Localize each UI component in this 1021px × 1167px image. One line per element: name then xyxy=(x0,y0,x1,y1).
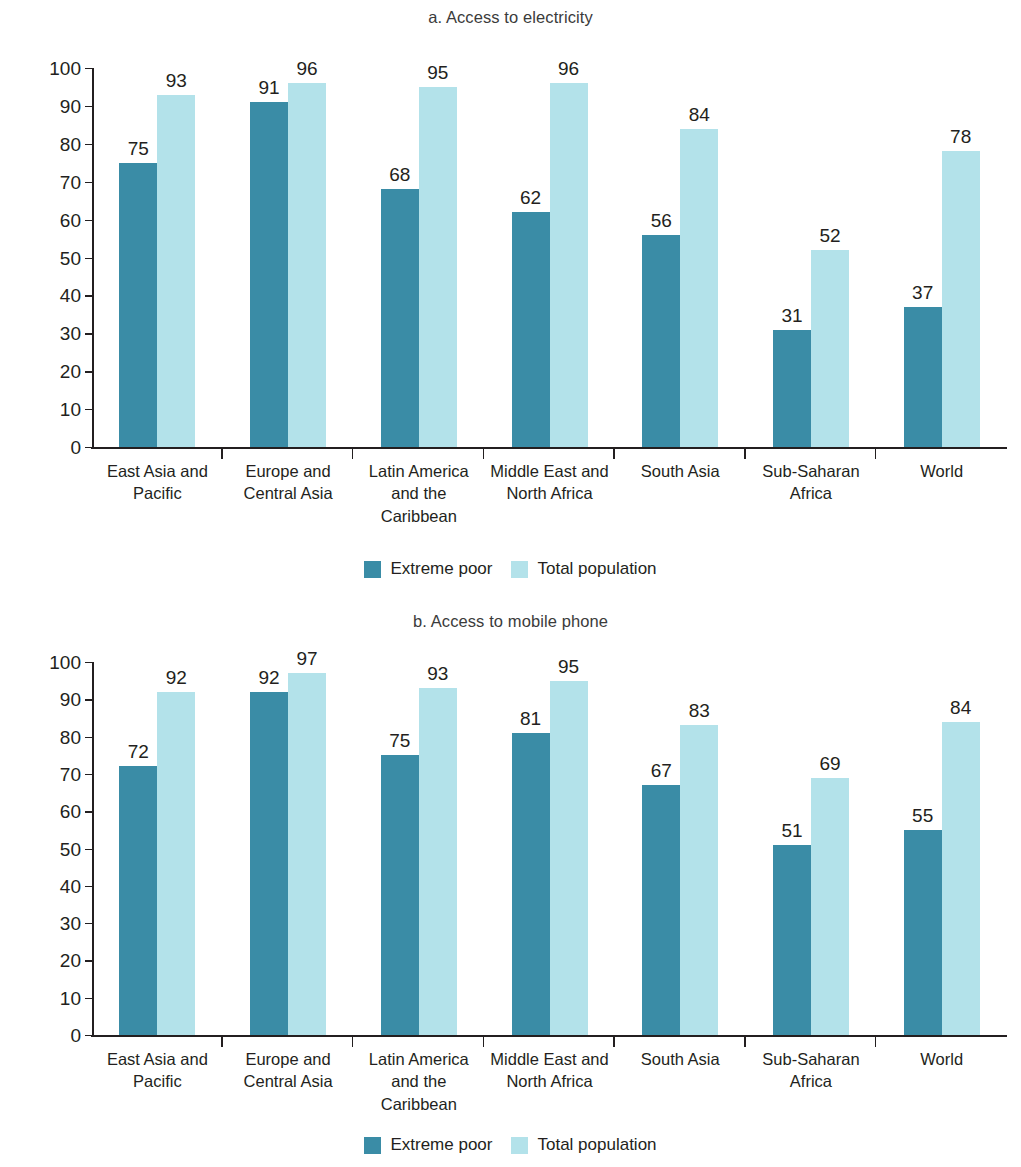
y-axis-tick-label: 50 xyxy=(60,839,81,858)
y-axis-tick-label: 20 xyxy=(60,951,81,970)
bar-total-population[interactable]: 52 xyxy=(811,250,849,447)
bar-total-population[interactable]: 92 xyxy=(157,692,195,1035)
y-axis-tick-label: 10 xyxy=(60,988,81,1007)
bar-value-label: 84 xyxy=(689,105,710,124)
bar-value-label: 96 xyxy=(297,59,318,78)
category-label: Europe and Central Asia xyxy=(223,1048,354,1115)
y-axis-tick-label: 30 xyxy=(60,914,81,933)
y-axis-tick xyxy=(85,447,92,448)
category-label: South Asia xyxy=(615,460,746,527)
bar-value-label: 91 xyxy=(259,78,280,97)
panel-a-legend: Extreme poor Total population xyxy=(0,559,1021,579)
bar-total-population[interactable]: 96 xyxy=(550,83,588,447)
legend-swatch-extreme-poor-icon xyxy=(364,1137,381,1154)
y-axis-tick-label: 100 xyxy=(49,59,81,78)
y-axis-tick-label: 0 xyxy=(70,438,81,457)
panel-a-x-axis-line xyxy=(91,447,1007,449)
y-axis-tick xyxy=(85,106,92,107)
bar-extreme-poor[interactable]: 75 xyxy=(119,163,157,447)
legend-item-total-population: Total population xyxy=(511,1135,656,1155)
legend-label-total-population: Total population xyxy=(537,1135,656,1155)
bar-total-population[interactable]: 95 xyxy=(550,681,588,1035)
panel-a-title: a. Access to electricity xyxy=(0,0,1021,27)
bar-value-label: 52 xyxy=(819,226,840,245)
panel-b-title: b. Access to mobile phone xyxy=(0,600,1021,631)
panel-b-plot-area: 1009080706050403020100 72929297759381956… xyxy=(92,662,1007,1035)
y-axis-tick-label: 50 xyxy=(60,248,81,267)
y-axis-tick xyxy=(85,774,92,775)
bar-extreme-poor[interactable]: 81 xyxy=(512,733,550,1035)
bar-extreme-poor[interactable]: 62 xyxy=(512,212,550,447)
y-axis-tick xyxy=(85,662,92,663)
bar-extreme-poor[interactable]: 75 xyxy=(381,755,419,1035)
bar-value-label: 92 xyxy=(166,668,187,687)
bar-extreme-poor[interactable]: 72 xyxy=(119,766,157,1035)
bar-total-population[interactable]: 78 xyxy=(942,151,980,447)
y-axis-tick-label: 0 xyxy=(70,1026,81,1045)
panel-b-legend: Extreme poor Total population xyxy=(0,1135,1021,1155)
y-axis-tick-label: 100 xyxy=(49,653,81,672)
y-axis-tick xyxy=(85,1035,92,1036)
y-axis-tick-label: 90 xyxy=(60,690,81,709)
bar-total-population[interactable]: 95 xyxy=(419,87,457,447)
y-axis-tick xyxy=(85,886,92,887)
bar-extreme-poor[interactable]: 55 xyxy=(904,830,942,1035)
bar-value-label: 81 xyxy=(520,709,541,728)
bar-group: 9297 xyxy=(223,662,354,1035)
y-axis-tick-label: 20 xyxy=(60,362,81,381)
bar-extreme-poor[interactable]: 67 xyxy=(642,785,680,1035)
bar-total-population[interactable]: 83 xyxy=(680,725,718,1035)
y-axis-tick xyxy=(85,409,92,410)
bar-value-label: 68 xyxy=(389,165,410,184)
legend-label-total-population: Total population xyxy=(537,559,656,579)
bar-value-label: 84 xyxy=(950,698,971,717)
bar-extreme-poor[interactable]: 92 xyxy=(250,692,288,1035)
bar-value-label: 69 xyxy=(819,754,840,773)
bar-value-label: 78 xyxy=(950,127,971,146)
category-label: Latin America and the Caribbean xyxy=(353,460,484,527)
bar-value-label: 97 xyxy=(297,649,318,668)
category-label: South Asia xyxy=(615,1048,746,1115)
y-axis-tick-label: 40 xyxy=(60,876,81,895)
bar-total-population[interactable]: 96 xyxy=(288,83,326,447)
y-axis-tick-label: 80 xyxy=(60,727,81,746)
bar-value-label: 62 xyxy=(520,188,541,207)
bar-total-population[interactable]: 84 xyxy=(942,722,980,1035)
category-label: Middle East and North Africa xyxy=(484,460,615,527)
category-label: World xyxy=(876,460,1007,527)
bar-extreme-poor[interactable]: 68 xyxy=(381,189,419,447)
legend-swatch-total-population-icon xyxy=(511,1137,528,1154)
bar-total-population[interactable]: 84 xyxy=(680,129,718,447)
bar-value-label: 83 xyxy=(689,701,710,720)
y-axis-tick-label: 30 xyxy=(60,324,81,343)
bar-value-label: 96 xyxy=(558,59,579,78)
bar-total-population[interactable]: 93 xyxy=(419,688,457,1035)
bar-total-population[interactable]: 97 xyxy=(288,673,326,1035)
y-axis-tick xyxy=(85,220,92,221)
bar-group: 7593 xyxy=(92,68,223,447)
bar-value-label: 75 xyxy=(389,731,410,750)
bar-extreme-poor[interactable]: 31 xyxy=(773,330,811,447)
bar-total-population[interactable]: 69 xyxy=(811,778,849,1035)
y-axis-tick-label: 70 xyxy=(60,172,81,191)
bar-group: 9196 xyxy=(223,68,354,447)
legend-item-extreme-poor: Extreme poor xyxy=(364,559,492,579)
y-axis-tick xyxy=(85,258,92,259)
bar-total-population[interactable]: 93 xyxy=(157,95,195,447)
y-axis-tick-label: 10 xyxy=(60,400,81,419)
panel-b-category-labels: East Asia and PacificEurope and Central … xyxy=(92,1048,1007,1115)
bar-extreme-poor[interactable]: 37 xyxy=(904,307,942,447)
y-axis-tick xyxy=(85,144,92,145)
bar-extreme-poor[interactable]: 56 xyxy=(642,235,680,447)
legend-label-extreme-poor: Extreme poor xyxy=(390,559,492,579)
bar-extreme-poor[interactable]: 91 xyxy=(250,102,288,447)
bar-group: 5584 xyxy=(876,662,1007,1035)
bar-extreme-poor[interactable]: 51 xyxy=(773,845,811,1035)
bar-value-label: 93 xyxy=(427,664,448,683)
y-axis-tick-label: 70 xyxy=(60,764,81,783)
bar-value-label: 51 xyxy=(781,821,802,840)
bar-group: 6783 xyxy=(615,662,746,1035)
bar-group: 3152 xyxy=(746,68,877,447)
legend-item-extreme-poor: Extreme poor xyxy=(364,1135,492,1155)
bar-group: 7593 xyxy=(353,662,484,1035)
